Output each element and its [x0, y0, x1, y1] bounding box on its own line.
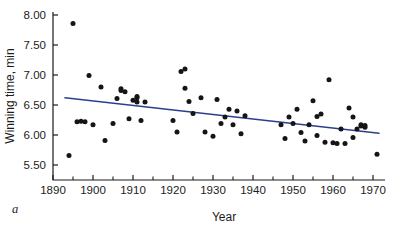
data-point	[99, 85, 104, 90]
data-point	[303, 139, 308, 144]
data-point	[71, 21, 76, 26]
data-point	[191, 111, 196, 116]
data-point	[327, 77, 332, 82]
data-point	[347, 106, 352, 111]
y-tick-label: 7.50	[24, 39, 46, 51]
data-point	[351, 135, 356, 140]
data-point	[295, 107, 300, 112]
axis-ticks	[53, 15, 373, 180]
data-point	[127, 116, 132, 121]
data-point	[339, 127, 344, 132]
data-point	[351, 115, 356, 120]
data-point	[111, 121, 116, 126]
data-point	[343, 141, 348, 146]
data-point	[135, 94, 140, 99]
data-point	[219, 121, 224, 126]
data-point	[299, 130, 304, 135]
data-point	[323, 140, 328, 145]
trend-line	[65, 98, 379, 133]
y-tick-label: 6.50	[24, 99, 46, 111]
data-point	[223, 115, 228, 120]
data-point	[143, 100, 148, 105]
data-point	[67, 153, 72, 158]
y-axis-title: Winning time, min	[3, 48, 17, 143]
x-tick-label: 1940	[240, 184, 266, 196]
data-point	[287, 115, 292, 120]
data-point	[115, 96, 120, 101]
x-tick-label: 1930	[200, 184, 226, 196]
data-point	[319, 112, 324, 117]
y-tick-label: 6.00	[24, 129, 46, 141]
figure-panel: 189019001910192019301940195019601970 5.5…	[0, 0, 393, 229]
x-tick-label: 1890	[40, 184, 66, 196]
data-point	[335, 141, 340, 146]
data-point	[91, 122, 96, 127]
data-point	[183, 86, 188, 91]
data-point	[183, 67, 188, 72]
data-point	[243, 113, 248, 118]
data-point	[119, 86, 124, 91]
data-point	[83, 119, 88, 124]
data-point	[123, 89, 128, 94]
panel-letter: a	[12, 202, 18, 216]
axes	[53, 12, 385, 180]
data-points	[67, 21, 380, 158]
data-point	[135, 100, 140, 105]
data-point	[375, 152, 380, 157]
data-point	[103, 138, 108, 143]
data-point	[363, 123, 368, 128]
data-point	[139, 118, 144, 123]
x-axis-title: Year	[212, 210, 236, 224]
data-point	[227, 107, 232, 112]
data-point	[187, 99, 192, 104]
data-point	[87, 73, 92, 78]
data-point	[215, 97, 220, 102]
x-tick-label: 1920	[160, 184, 186, 196]
data-point	[231, 122, 236, 127]
y-tick-label: 5.50	[24, 159, 46, 171]
x-tick-label: 1910	[120, 184, 146, 196]
data-point	[315, 133, 320, 138]
axis-spines	[53, 12, 385, 180]
x-tick-label: 1960	[320, 184, 346, 196]
y-tick-label: 8.00	[24, 9, 46, 21]
data-point	[199, 95, 204, 100]
x-tick-label: 1950	[280, 184, 306, 196]
data-point	[211, 134, 216, 139]
data-point	[311, 98, 316, 103]
data-point	[291, 121, 296, 126]
x-tick-label: 1900	[80, 184, 106, 196]
data-point	[283, 136, 288, 141]
data-point	[279, 122, 284, 127]
regression-line	[65, 98, 379, 133]
scatter-plot: 189019001910192019301940195019601970 5.5…	[0, 0, 393, 229]
data-point	[235, 109, 240, 114]
x-tick-label: 1970	[360, 184, 386, 196]
data-point	[171, 118, 176, 123]
data-point	[307, 122, 312, 127]
y-tick-label: 7.00	[24, 69, 46, 81]
data-point	[203, 130, 208, 135]
x-tick-labels: 189019001910192019301940195019601970	[40, 184, 386, 196]
data-point	[355, 127, 360, 132]
data-point	[175, 130, 180, 135]
data-point	[239, 131, 244, 136]
y-tick-labels: 5.506.006.507.007.508.00	[24, 9, 46, 171]
